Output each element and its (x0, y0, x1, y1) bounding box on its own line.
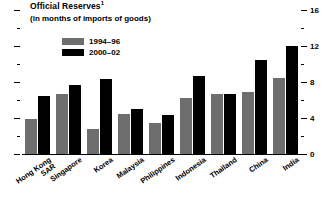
axis-tick-label: 12 (310, 42, 319, 51)
x-axis-category-label: India (281, 156, 300, 173)
axis-tick-label: 4 (310, 114, 314, 123)
bar-group (208, 10, 239, 154)
bar (100, 79, 112, 154)
bar-group (146, 10, 177, 154)
x-axis-category-label: Korea (92, 156, 114, 175)
axis-tick-label: 8 (310, 78, 314, 87)
axis-tick-minor (17, 100, 20, 101)
bar-group (115, 10, 146, 154)
bar-group (84, 10, 115, 154)
bar (242, 92, 254, 154)
axis-tick-major (301, 46, 307, 47)
bar (162, 115, 174, 154)
bar-group (22, 10, 53, 154)
bar (69, 85, 81, 154)
bar-group (177, 10, 208, 154)
bar (118, 114, 130, 154)
x-axis-category-label: China (247, 156, 269, 175)
x-axis-category-labels: Hong KongSARSingaporeKoreaMalaysiaPhilip… (22, 156, 301, 202)
bar (286, 46, 298, 154)
bar-group (270, 10, 301, 154)
axis-tick-minor (301, 64, 304, 65)
bar-group (53, 10, 84, 154)
axis-tick-major (14, 82, 20, 83)
plot-area (22, 10, 301, 154)
axis-tick-major (301, 10, 307, 11)
chart-container: Official Reserves1 (in months of imports… (0, 0, 329, 203)
x-axis-category-label: Indonesia (174, 156, 207, 183)
axis-tick-minor (301, 136, 304, 137)
bar (38, 96, 50, 154)
axis-tick-minor (17, 64, 20, 65)
bar (273, 78, 285, 154)
axis-tick-major (14, 154, 20, 155)
bar (193, 76, 205, 154)
bar (211, 94, 223, 154)
x-axis-category-label: Thailand (208, 156, 238, 180)
bar (180, 98, 192, 154)
bar (25, 119, 37, 154)
axis-tick-major (301, 118, 307, 119)
axis-tick-major (14, 10, 20, 11)
bar (149, 123, 161, 154)
axis-tick-major (14, 46, 20, 47)
bar-group (239, 10, 270, 154)
axis-tick-minor (301, 100, 304, 101)
axis-tick-label: 0 (310, 150, 314, 159)
axis-tick-minor (301, 28, 304, 29)
bar (131, 109, 143, 154)
axis-tick-major (14, 118, 20, 119)
bar (56, 94, 68, 154)
axis-tick-major (301, 82, 307, 83)
chart-title-footnote-marker: 1 (101, 0, 104, 6)
y-axis-left-ticks (12, 10, 20, 154)
axis-tick-label: 16 (310, 6, 319, 15)
axis-tick-minor (17, 136, 20, 137)
bar (255, 60, 267, 154)
bar (224, 94, 236, 154)
axis-tick-minor (17, 28, 20, 29)
y-axis-right-ticks (301, 10, 309, 154)
bars-layer (22, 10, 301, 154)
bar (87, 129, 99, 154)
